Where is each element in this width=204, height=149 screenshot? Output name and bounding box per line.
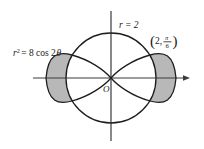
point-label-denominator: 6 [166, 42, 170, 49]
point-label-close-paren: ) [173, 33, 178, 50]
lemniscate-label-theta: θ [56, 48, 61, 58]
lemniscate-label-exponent: 2 [17, 47, 20, 54]
lemniscate-equation-label: r2= 8 cos 2θ [13, 47, 61, 58]
circle-equation-label: r = 2 [119, 20, 139, 30]
polar-plot: r2= 8 cos 2θ r = 2 O ( 2, π 6 ) [0, 0, 204, 149]
x-axis-arrowhead [183, 75, 190, 81]
point-label-numerator: π [165, 34, 169, 41]
point-polar-label: ( 2, π 6 ) [150, 33, 178, 50]
origin-label: O [103, 84, 110, 94]
lemniscate-label-equals: = 8 cos 2 [21, 48, 56, 58]
polar-figure-container: r2= 8 cos 2θ r = 2 O ( 2, π 6 ) [0, 0, 204, 149]
point-label-radius: 2, [155, 36, 162, 46]
